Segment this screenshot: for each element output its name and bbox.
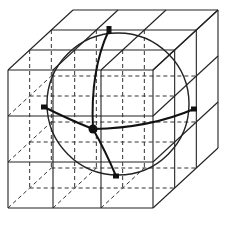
- marker-top-icon: [107, 26, 112, 34]
- marker-bottom-icon: [113, 174, 119, 179]
- marker-left-icon: [41, 105, 47, 110]
- equator-arc-right: [93, 109, 194, 129]
- cube-sphere-diagram: [0, 0, 230, 230]
- sphere: [41, 26, 197, 179]
- center-point-icon: [89, 125, 98, 134]
- marker-right-icon: [191, 107, 197, 112]
- diagram-canvas: [0, 0, 230, 230]
